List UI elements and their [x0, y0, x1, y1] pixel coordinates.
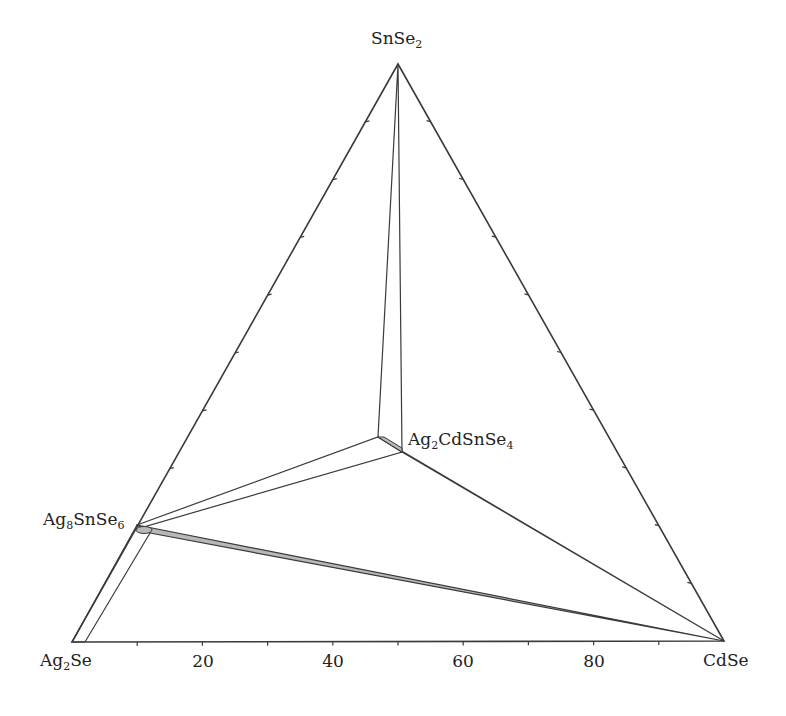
tick-label-60: 60 — [452, 653, 474, 670]
band-ag8snse6-ag2cdsnse4 — [137, 437, 402, 528]
band-ag8snse6-cdse — [137, 525, 724, 641]
tick-label-20: 20 — [192, 653, 214, 670]
tick-label-80: 80 — [583, 653, 605, 670]
tick-label-40: 40 — [322, 653, 344, 670]
vertex-label-snse2: SnSe2 — [371, 30, 422, 50]
band-snse2-ag2cdsnse4 — [378, 64, 402, 452]
vertex-label-ag2se: Ag2Se — [40, 652, 92, 672]
phase-bands — [72, 64, 724, 642]
band-ag2cdsnse4-cdse — [378, 437, 724, 641]
ternary-diagram — [0, 0, 786, 716]
band-ag2se-ag8snse6 — [72, 525, 150, 642]
vertex-label-cdse: CdSe — [703, 652, 749, 669]
compound-label-ag2cdsnse4: Ag2CdSnSe4 — [408, 431, 513, 451]
phase-region-ag8snse6 — [136, 527, 152, 534]
compound-label-ag8snse6: Ag8SnSe6 — [43, 511, 124, 531]
